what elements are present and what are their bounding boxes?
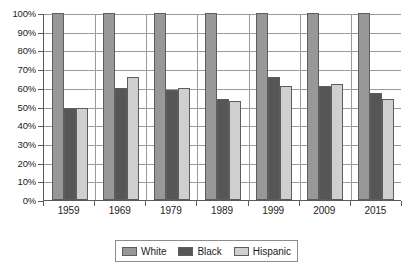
y-tick-label: 40% [0,121,36,131]
bar-groups [44,14,401,200]
bar-white-2009 [307,13,319,200]
legend-swatch-icon [234,247,249,256]
bar-group [95,14,146,200]
y-tick-label: 90% [0,28,36,38]
y-tick-mark [38,33,43,34]
bar-group [197,14,248,200]
y-tick-label: 0% [0,196,36,206]
y-axis: 0%10%20%30%40%50%60%70%80%90%100% [0,14,36,201]
x-axis-label: 2015 [350,205,401,217]
y-tick-label: 100% [0,9,36,19]
x-axis-label: 1979 [145,205,196,217]
bar-black-1969 [115,88,127,200]
y-tick-mark [38,89,43,90]
y-tick-label: 50% [0,103,36,113]
bar-white-1979 [154,13,166,200]
legend-swatch-icon [178,247,193,256]
x-axis-label: 1999 [248,205,299,217]
bar-hispanic-2009 [331,84,343,200]
y-tick-mark [38,108,43,109]
bar-group [299,14,350,200]
x-tick-mark [401,201,402,206]
legend-label: Hispanic [253,246,291,257]
bar-black-1999 [268,77,280,200]
bar-hispanic-2015 [382,99,394,200]
y-tick-label: 30% [0,140,36,150]
bar-black-2015 [370,93,382,200]
legend-label: White [141,246,167,257]
bar-hispanic-1979 [178,88,190,200]
x-axis-label: 1989 [196,205,247,217]
bar-hispanic-1989 [229,101,241,200]
y-tick-label: 10% [0,177,36,187]
chart-legend: WhiteBlackHispanic [115,240,298,262]
x-tick-mark [248,201,249,206]
x-tick-mark [43,201,44,206]
y-tick-mark [38,51,43,52]
x-axis-label: 1959 [43,205,94,217]
x-tick-mark [350,201,351,206]
plot-wrapper: 0%10%20%30%40%50%60%70%80%90%100% 195919… [0,0,408,228]
bar-black-2009 [319,86,331,200]
x-tick-mark [299,201,300,206]
bar-group [248,14,299,200]
bar-group [146,14,197,200]
bar-group [350,14,401,200]
bar-black-1989 [217,99,229,200]
bar-white-1989 [205,13,217,200]
y-tick-label: 70% [0,65,36,75]
y-tick-label: 20% [0,159,36,169]
y-tick-mark [38,14,43,15]
bar-white-1969 [103,13,115,200]
legend-item-white: White [122,246,167,257]
y-tick-label: 80% [0,46,36,56]
bar-white-1959 [52,13,64,200]
y-tick-mark [38,70,43,71]
x-axis-label: 2009 [299,205,350,217]
x-tick-mark [94,201,95,206]
legend-label: Black [197,246,221,257]
legend-item-hispanic: Hispanic [234,246,291,257]
x-tick-mark [196,201,197,206]
x-axis-label: 1969 [94,205,145,217]
plot-area [43,14,401,201]
bar-chart: 0%10%20%30%40%50%60%70%80%90%100% 195919… [0,0,408,272]
bar-hispanic-1969 [127,77,139,200]
bar-white-2015 [358,13,370,200]
legend-swatch-icon [122,247,137,256]
bar-black-1959 [64,108,76,200]
bar-black-1979 [166,90,178,200]
x-tick-mark [145,201,146,206]
bar-group [44,14,95,200]
y-tick-mark [38,182,43,183]
legend-item-black: Black [178,246,221,257]
y-tick-mark [38,164,43,165]
y-tick-mark [38,145,43,146]
bar-hispanic-1999 [280,86,292,200]
x-axis-labels: 1959196919791989199920092015 [43,205,401,217]
y-tick-mark [38,126,43,127]
bar-hispanic-1959 [76,108,88,200]
bar-white-1999 [256,13,268,200]
y-tick-label: 60% [0,84,36,94]
